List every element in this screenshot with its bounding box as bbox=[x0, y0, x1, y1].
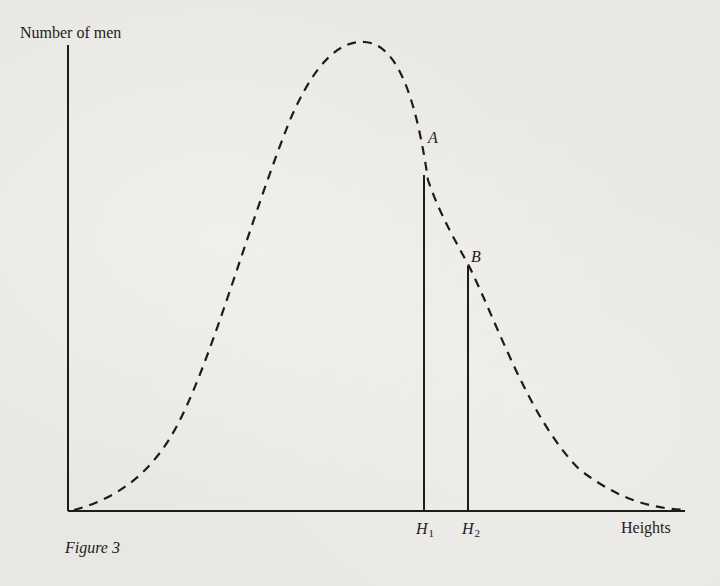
tick-h1-subscript: 1 bbox=[429, 527, 435, 539]
tick-h1: H1 bbox=[416, 521, 434, 539]
point-a-label: A bbox=[428, 130, 438, 146]
x-axis-label: Heights bbox=[621, 520, 671, 536]
tick-h2-letter: H bbox=[462, 520, 474, 537]
tick-h2: H2 bbox=[462, 521, 480, 539]
distribution-curve bbox=[74, 42, 685, 510]
figure-caption: Figure 3 bbox=[65, 540, 120, 556]
point-b-label: B bbox=[471, 249, 481, 265]
distribution-figure bbox=[0, 0, 720, 586]
tick-h1-letter: H bbox=[416, 520, 428, 537]
tick-h2-subscript: 2 bbox=[475, 527, 481, 539]
y-axis-label: Number of men bbox=[20, 25, 121, 41]
